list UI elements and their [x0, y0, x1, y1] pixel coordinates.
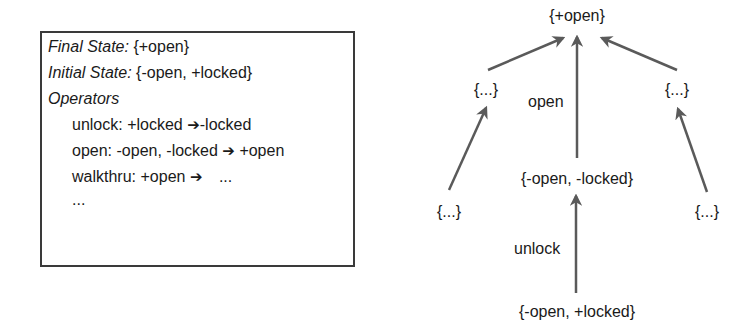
graph-edges — [0, 0, 752, 335]
edge-right-lower-to-right-upper — [678, 109, 707, 192]
node-right-lower: {...} — [695, 203, 719, 221]
node-left-upper: {...} — [474, 81, 498, 99]
search-graph: {+open} {...} {...} {-open, -locked} {..… — [0, 0, 752, 335]
node-goal: {+open} — [549, 7, 605, 25]
node-middle: {-open, -locked} — [521, 170, 633, 188]
edge-label-open: open — [528, 93, 564, 111]
edge-left-upper-to-goal — [488, 38, 563, 70]
node-left-lower: {...} — [437, 203, 461, 221]
edge-right-upper-to-goal — [602, 38, 677, 70]
edge-label-unlock: unlock — [514, 240, 560, 258]
node-start: {-open, +locked} — [519, 303, 635, 321]
node-right-upper: {...} — [665, 81, 689, 99]
edge-left-lower-to-left-upper — [449, 108, 486, 190]
